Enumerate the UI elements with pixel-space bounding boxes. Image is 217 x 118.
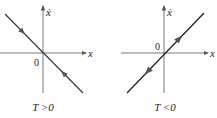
- left-y-axis-label: ẋ: [45, 6, 51, 18]
- left-caption: T >0: [32, 101, 54, 113]
- right-x-axis-label: x: [209, 47, 215, 59]
- left-trajectory-line: [5, 14, 83, 93]
- right-y-axis-label: ẋ: [166, 6, 172, 18]
- left-x-axis-label: x: [87, 47, 93, 59]
- left-arrow-lower: [62, 72, 66, 76]
- phase-diagram: x ẋ 0 T >0 x ẋ 0 T <0: [0, 0, 217, 118]
- right-origin-label: 0: [155, 41, 160, 52]
- right-caption: T <0: [154, 101, 176, 113]
- right-arrow-lower: [146, 69, 150, 73]
- left-arrow-upper: [20, 29, 24, 33]
- right-panel: x ẋ 0 T <0: [121, 6, 215, 113]
- right-arrow-upper: [177, 37, 181, 41]
- left-panel: x ẋ 0 T >0: [0, 6, 93, 113]
- left-origin-label: 0: [34, 57, 39, 68]
